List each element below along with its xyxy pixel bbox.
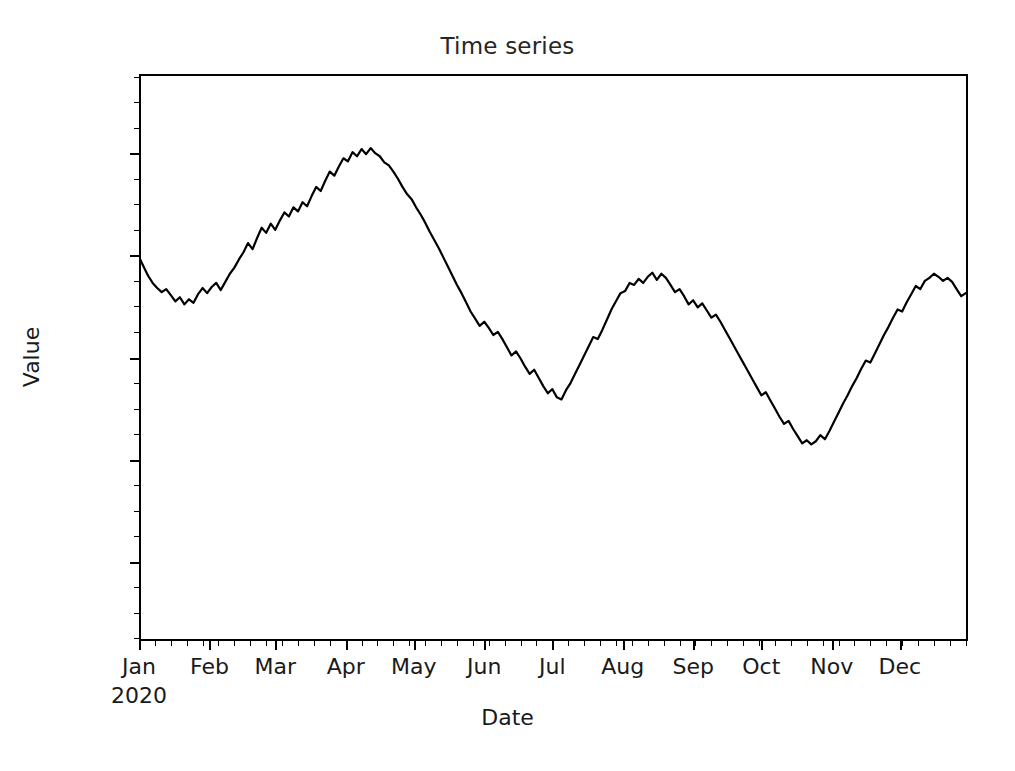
x-minor-tick-mark (282, 641, 283, 646)
x-minor-tick-mark (298, 641, 299, 646)
x-minor-tick-mark (218, 641, 219, 646)
y-minor-tick-mark (134, 536, 139, 537)
y-minor-tick-mark (134, 409, 139, 410)
y-minor-tick-mark (134, 383, 139, 384)
x-minor-tick-mark (330, 641, 331, 646)
x-minor-tick-mark (377, 641, 378, 646)
x-minor-tick-mark (250, 641, 251, 646)
x-tick-mark (414, 641, 416, 650)
x-tick-label: Jun (467, 654, 501, 679)
x-minor-tick-mark (870, 641, 871, 646)
x-tick-label: Mar (255, 654, 297, 679)
x-axis-label: Date (0, 705, 1015, 730)
x-minor-tick-mark (441, 641, 442, 646)
y-tick-mark (130, 460, 139, 462)
x-minor-tick-mark (727, 641, 728, 646)
x-minor-tick-mark (568, 641, 569, 646)
x-tick-mark (484, 641, 486, 650)
x-minor-tick-mark (616, 641, 617, 646)
series-path (139, 148, 966, 444)
y-minor-tick-mark (134, 306, 139, 307)
y-minor-tick-mark (134, 613, 139, 614)
y-minor-tick-mark (134, 230, 139, 231)
x-tick-label: Aug (601, 654, 644, 679)
y-minor-tick-mark (134, 434, 139, 435)
x-minor-tick-mark (966, 641, 967, 646)
y-minor-tick-mark (134, 638, 139, 639)
x-tick-label: Nov (810, 654, 853, 679)
x-minor-tick-mark (775, 641, 776, 646)
x-minor-tick-mark (457, 641, 458, 646)
x-minor-tick-mark (743, 641, 744, 646)
x-minor-tick-mark (409, 641, 410, 646)
x-minor-tick-mark (425, 641, 426, 646)
chart-figure: Time series Value Jan2020FebMarAprMayJun… (0, 0, 1015, 771)
x-minor-tick-mark (505, 641, 506, 646)
y-minor-tick-mark (134, 332, 139, 333)
y-minor-tick-mark (134, 102, 139, 103)
x-minor-tick-mark (648, 641, 649, 646)
x-minor-tick-mark (950, 641, 951, 646)
x-tick-label: Dec (879, 654, 922, 679)
x-minor-tick-mark (934, 641, 935, 646)
x-minor-tick-mark (664, 641, 665, 646)
y-minor-tick-mark (134, 485, 139, 486)
x-tick-label: May (391, 654, 436, 679)
x-minor-tick-mark (203, 641, 204, 646)
x-tick-mark (832, 641, 834, 650)
x-tick-label: Sep (672, 654, 713, 679)
x-minor-tick-mark (314, 641, 315, 646)
x-minor-tick-mark (362, 641, 363, 646)
x-minor-tick-mark (521, 641, 522, 646)
x-minor-tick-mark (918, 641, 919, 646)
x-minor-tick-mark (854, 641, 855, 646)
x-minor-tick-mark (536, 641, 537, 646)
y-minor-tick-mark (134, 204, 139, 205)
x-minor-tick-mark (584, 641, 585, 646)
x-minor-tick-mark (600, 641, 601, 646)
y-tick-mark (130, 153, 139, 155)
x-minor-tick-mark (823, 641, 824, 646)
x-minor-tick-mark (234, 641, 235, 646)
x-minor-tick-mark (839, 641, 840, 646)
x-minor-tick-mark (680, 641, 681, 646)
x-minor-tick-mark (902, 641, 903, 646)
x-minor-tick-mark (695, 641, 696, 646)
x-minor-tick-mark (266, 641, 267, 646)
x-minor-tick-mark (886, 641, 887, 646)
y-tick-mark (130, 358, 139, 360)
x-tick-label: Oct (742, 654, 780, 679)
x-tick-mark (761, 641, 763, 650)
x-tick-mark (552, 641, 554, 650)
x-tick-label: Jul (539, 654, 566, 679)
y-minor-tick-mark (134, 179, 139, 180)
x-minor-tick-mark (711, 641, 712, 646)
x-minor-tick-mark (759, 641, 760, 646)
y-axis-label: Value (19, 327, 44, 387)
x-tick-mark (623, 641, 625, 650)
y-tick-mark (130, 562, 139, 564)
x-tick-mark (209, 641, 211, 650)
x-minor-tick-mark (473, 641, 474, 646)
x-minor-tick-mark (155, 641, 156, 646)
y-minor-tick-mark (134, 281, 139, 282)
x-minor-tick-mark (187, 641, 188, 646)
chart-title: Time series (0, 33, 1015, 59)
x-minor-tick-mark (171, 641, 172, 646)
y-minor-tick-mark (134, 511, 139, 512)
x-minor-tick-mark (393, 641, 394, 646)
x-minor-tick-mark (632, 641, 633, 646)
x-tick-mark (346, 641, 348, 650)
plot-area (139, 74, 968, 641)
x-tick-mark (139, 641, 141, 650)
y-minor-tick-mark (134, 128, 139, 129)
x-tick-label: Apr (327, 654, 365, 679)
x-tick-label: Feb (190, 654, 229, 679)
x-minor-tick-mark (807, 641, 808, 646)
x-minor-tick-mark (489, 641, 490, 646)
x-minor-tick-mark (791, 641, 792, 646)
y-minor-tick-mark (134, 77, 139, 78)
y-tick-mark (130, 255, 139, 257)
x-tick-label: Jan (122, 654, 156, 679)
series-line-chart (139, 74, 968, 641)
